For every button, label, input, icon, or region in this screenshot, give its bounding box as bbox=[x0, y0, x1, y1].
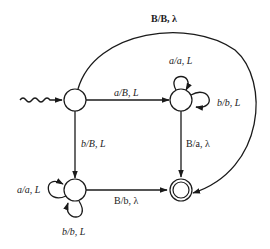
state-q1 bbox=[170, 89, 192, 111]
transition-q0-q3-arc bbox=[78, 33, 256, 193]
loop-q2-left bbox=[48, 181, 66, 197]
label-q2-q3: B/b, λ bbox=[114, 196, 138, 206]
label-q1-q3: B/a, λ bbox=[186, 139, 210, 149]
label-q2-loop-left: a/a, L bbox=[17, 185, 40, 195]
loop-q1-top bbox=[174, 77, 188, 91]
state-q0-initial bbox=[64, 89, 86, 111]
start-arrow bbox=[20, 98, 62, 102]
label-q1-loop-right: b/b, L bbox=[217, 98, 240, 108]
label-q1-loop-top: a/a, L bbox=[169, 56, 192, 66]
state-diagram bbox=[0, 0, 270, 249]
state-q2 bbox=[64, 179, 86, 201]
label-arc-top: B/B, λ bbox=[151, 14, 177, 24]
loop-q2-bottom bbox=[67, 201, 82, 217]
loop-q1-right bbox=[191, 92, 209, 107]
label-q0-q2: b/B, L bbox=[81, 139, 105, 149]
label-q2-loop-bottom: b/b, L bbox=[62, 227, 85, 237]
label-q0-q1: a/B, L bbox=[114, 88, 138, 98]
